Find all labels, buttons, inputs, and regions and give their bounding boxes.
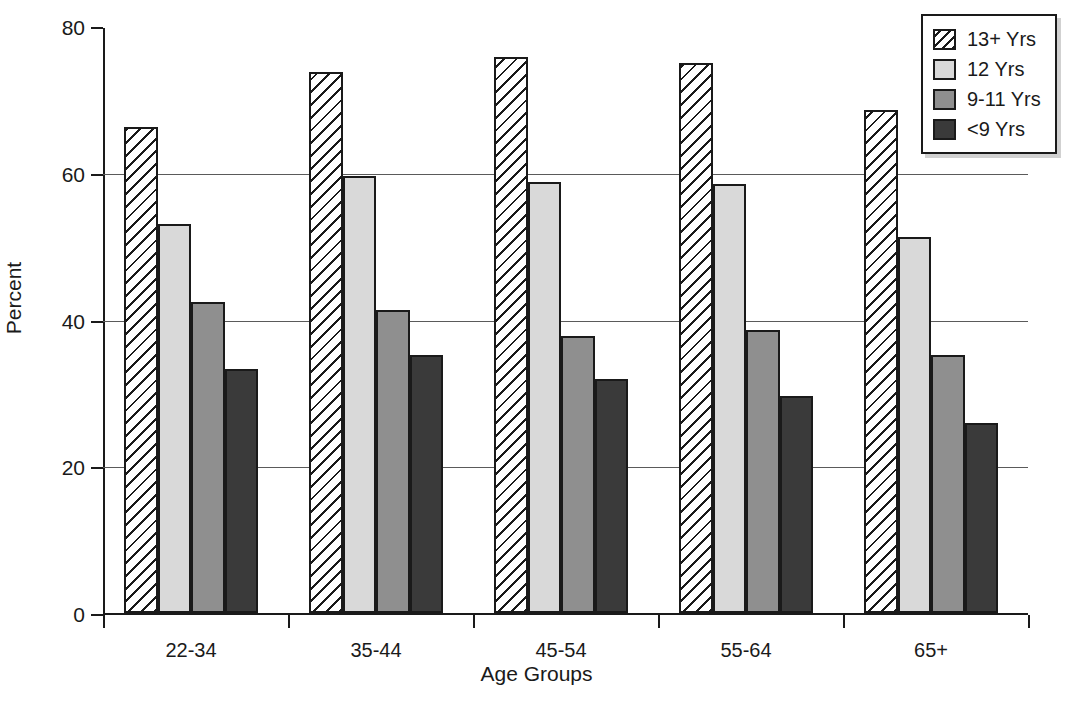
legend-label: 9-11 Yrs	[967, 88, 1041, 111]
bar-45-54--9-yrs[interactable]	[595, 379, 629, 613]
x-tick-mark-1	[288, 615, 290, 628]
legend-item--9-yrs[interactable]: <9 Yrs	[933, 114, 1041, 144]
chart-page: Percent 020406080 22-3435-4445-5455-6465…	[0, 0, 1073, 701]
bar-22-34--9-yrs[interactable]	[225, 369, 259, 613]
bar-65+-12-yrs[interactable]	[898, 237, 932, 613]
y-tick-label-80: 80	[62, 16, 85, 40]
legend-swatch-icon-1	[933, 59, 956, 80]
bar-35-44-9-11-yrs[interactable]	[376, 310, 410, 613]
x-tick-label-45-54: 45-54	[535, 639, 586, 662]
x-tick-label-65+: 65+	[914, 639, 948, 662]
x-tick-mark-4	[843, 615, 845, 628]
legend-item-13-yrs[interactable]: 13+ Yrs	[933, 24, 1041, 54]
y-tick-80	[91, 27, 103, 29]
legend-item-9-11-yrs[interactable]: 9-11 Yrs	[933, 84, 1041, 114]
legend-item-12-yrs[interactable]: 12 Yrs	[933, 54, 1041, 84]
bar-22-34-9-11-yrs[interactable]	[191, 302, 225, 613]
x-tick-label-35-44: 35-44	[350, 639, 401, 662]
x-tick-label-22-34: 22-34	[165, 639, 216, 662]
legend-swatch-icon-0	[933, 29, 956, 50]
y-tick-40	[91, 321, 103, 323]
x-axis-label: Age Groups	[0, 662, 1073, 686]
bar-55-64-12-yrs[interactable]	[713, 184, 747, 613]
x-tick-mark-0	[103, 615, 105, 628]
bar-22-34-12-yrs[interactable]	[158, 224, 192, 613]
bar-55-64-9-11-yrs[interactable]	[746, 330, 780, 613]
y-axis-line	[103, 28, 105, 615]
y-tick-label-20: 20	[62, 456, 85, 480]
bar-45-54-9-11-yrs[interactable]	[561, 336, 595, 613]
bar-35-44--9-yrs[interactable]	[410, 355, 444, 613]
y-tick-label-40: 40	[62, 310, 85, 334]
x-axis-line	[103, 613, 1028, 615]
bar-65+-13-yrs[interactable]	[864, 110, 898, 613]
bar-55-64-13-yrs[interactable]	[679, 63, 713, 613]
legend-label: <9 Yrs	[967, 118, 1025, 141]
bar-35-44-13-yrs[interactable]	[309, 72, 343, 614]
bar-55-64--9-yrs[interactable]	[780, 396, 814, 613]
y-tick-0	[91, 614, 103, 616]
legend-label: 13+ Yrs	[967, 28, 1036, 51]
legend-swatch-icon-2	[933, 89, 956, 110]
y-axis-label: Percent	[2, 262, 26, 334]
legend-swatch-icon-3	[933, 119, 956, 140]
bar-65+-9-11-yrs[interactable]	[931, 355, 965, 613]
bar-22-34-13-yrs[interactable]	[124, 127, 158, 613]
x-tick-mark-2	[473, 615, 475, 628]
chart-legend: 13+ Yrs12 Yrs9-11 Yrs<9 Yrs	[921, 14, 1057, 154]
y-tick-label-60: 60	[62, 163, 85, 187]
plot-area: 020406080 22-3435-4445-5455-6465+	[103, 28, 1028, 615]
bar-35-44-12-yrs[interactable]	[343, 176, 377, 613]
y-tick-20	[91, 467, 103, 469]
bar-45-54-12-yrs[interactable]	[528, 182, 562, 613]
bar-45-54-13-yrs[interactable]	[494, 57, 528, 613]
y-tick-60	[91, 174, 103, 176]
x-tick-mark-end	[1028, 615, 1030, 628]
x-tick-label-55-64: 55-64	[720, 639, 771, 662]
y-tick-label-0: 0	[73, 603, 85, 627]
legend-label: 12 Yrs	[967, 58, 1024, 81]
x-tick-mark-3	[658, 615, 660, 628]
bar-65+--9-yrs[interactable]	[965, 423, 999, 613]
